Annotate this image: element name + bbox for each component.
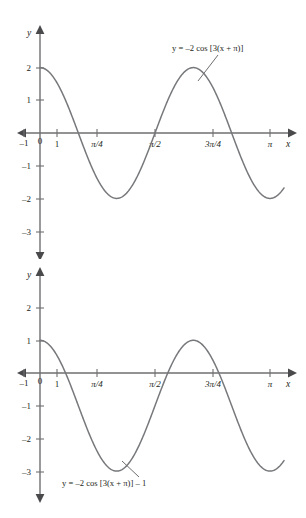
x-axis-label: x bbox=[285, 379, 291, 389]
x-tick-label: π bbox=[268, 379, 273, 389]
y-tick-label: –3 bbox=[21, 467, 32, 477]
y-tick-label: –1 bbox=[21, 401, 31, 411]
leader-line-figure-1 bbox=[198, 55, 218, 81]
x-tick-label: 3π/4 bbox=[204, 139, 222, 149]
x-tick-label: π/2 bbox=[149, 379, 161, 389]
leader-line-figure-2 bbox=[122, 461, 139, 477]
y-tick-label: 1 bbox=[27, 336, 32, 346]
figure-page: –1 0 1 π/4 π/2 3π/4 π 2 1 –1 –2 –3 x y y… bbox=[0, 0, 306, 518]
x-tick-label: 0 bbox=[38, 136, 43, 146]
y-tick-label: –2 bbox=[21, 434, 31, 444]
x-tick-label: 3π/4 bbox=[204, 379, 222, 389]
x-tick-label: –1 bbox=[19, 378, 29, 388]
y-tick-label: 2 bbox=[27, 63, 32, 73]
y-axis-label: y bbox=[26, 270, 32, 280]
x-tick-label: 1 bbox=[55, 139, 60, 149]
x-tick-label: π/4 bbox=[91, 139, 103, 149]
y-tick-label: 2 bbox=[27, 303, 32, 313]
x-axis-label: x bbox=[285, 139, 291, 149]
equation-label-figure-1: y = –2 cos [3(x + π)] bbox=[172, 43, 243, 53]
y-tick-label: –1 bbox=[21, 161, 31, 171]
curve-figure-2 bbox=[40, 340, 284, 471]
figure-top: –1 0 1 π/4 π/2 3π/4 π 2 1 –1 –2 –3 x y y… bbox=[0, 0, 306, 259]
figure-bottom: –1 0 1 π/4 π/2 3π/4 π 2 1 –1 –2 –3 x y y… bbox=[0, 259, 306, 518]
x-axis-figure-2 bbox=[17, 369, 297, 378]
x-tick-label: 1 bbox=[55, 379, 60, 389]
equation-label-figure-2: y = –2 cos [3(x + π)] – 1 bbox=[62, 478, 146, 488]
x-axis-figure-1 bbox=[17, 129, 297, 138]
y-tick-label: 1 bbox=[27, 95, 32, 105]
y-tick-label: –3 bbox=[21, 227, 32, 237]
y-axis-label: y bbox=[26, 28, 32, 38]
x-tick-label: π bbox=[268, 139, 273, 149]
x-tick-label: 0 bbox=[38, 376, 43, 386]
x-tick-label: π/4 bbox=[91, 379, 103, 389]
y-tick-label: –2 bbox=[21, 194, 31, 204]
x-tick-label: –1 bbox=[19, 138, 29, 148]
